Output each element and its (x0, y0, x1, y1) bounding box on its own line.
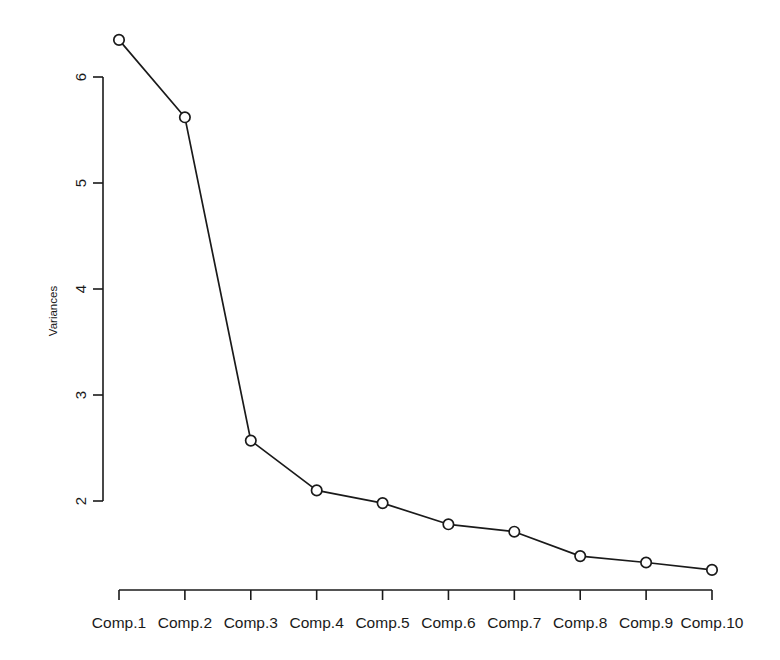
x-tick-label-comp-8: Comp.8 (553, 614, 607, 631)
data-point-comp-7 (509, 527, 519, 537)
data-point-comp-2 (180, 112, 190, 122)
x-tick-label-comp-3: Comp.3 (224, 614, 278, 631)
scree-plot-figure: 23456 Variances Comp.1Comp.2Comp.3Comp.4… (0, 0, 780, 660)
x-axis-ticks (119, 590, 712, 600)
x-tick-label-comp-2: Comp.2 (158, 614, 212, 631)
y-tick-label-2: 2 (72, 497, 89, 505)
data-series-variances (114, 35, 717, 575)
data-point-comp-10 (707, 565, 717, 575)
data-point-comp-5 (377, 498, 387, 508)
y-axis-title: Variances (47, 286, 59, 337)
data-point-comp-1 (114, 35, 124, 45)
x-tick-label-comp-10: Comp.10 (681, 614, 744, 631)
y-tick-label-6: 6 (72, 73, 89, 81)
data-point-comp-8 (575, 551, 585, 561)
y-tick-label-4: 4 (72, 285, 89, 293)
data-point-comp-3 (246, 435, 256, 445)
data-point-comp-4 (312, 485, 322, 495)
x-axis-tick-labels: Comp.1Comp.2Comp.3Comp.4Comp.5Comp.6Comp… (92, 614, 744, 631)
data-point-comp-6 (443, 519, 453, 529)
series-markers (114, 35, 717, 575)
y-axis-ticks (93, 77, 103, 501)
x-tick-label-comp-6: Comp.6 (421, 614, 475, 631)
y-tick-label-5: 5 (72, 179, 89, 187)
y-axis: 23456 Variances (47, 73, 103, 505)
series-line (119, 40, 712, 570)
plot-canvas: 23456 Variances Comp.1Comp.2Comp.3Comp.4… (0, 0, 780, 660)
x-tick-label-comp-9: Comp.9 (619, 614, 673, 631)
x-tick-label-comp-5: Comp.5 (355, 614, 409, 631)
x-tick-label-comp-4: Comp.4 (290, 614, 345, 631)
x-axis: Comp.1Comp.2Comp.3Comp.4Comp.5Comp.6Comp… (92, 590, 744, 631)
y-axis-tick-labels: 23456 (72, 73, 89, 505)
x-tick-label-comp-7: Comp.7 (487, 614, 541, 631)
x-tick-label-comp-1: Comp.1 (92, 614, 146, 631)
y-tick-label-3: 3 (72, 391, 89, 399)
data-point-comp-9 (641, 557, 651, 567)
